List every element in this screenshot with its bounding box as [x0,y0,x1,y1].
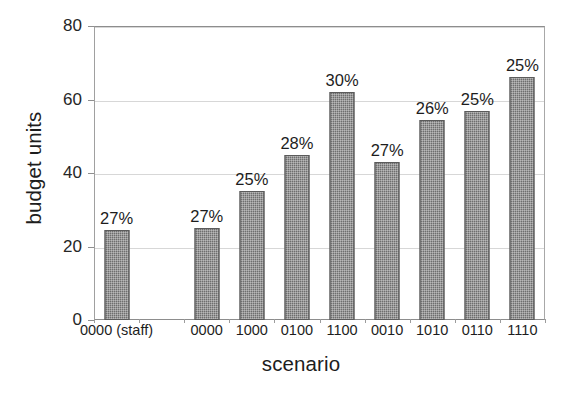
x-tick-mark [455,319,456,323]
x-tick-label: 0000 [191,322,223,338]
bar-slot: 25% [229,26,274,320]
bar-value-label: 27% [100,209,133,228]
x-tick-mark [545,319,546,323]
bar-slot: 25% [455,26,500,320]
bar-value-label: 27% [190,207,223,226]
bar[interactable] [330,92,355,320]
bar-value-label: 25% [235,170,268,189]
bar-chart: budget units 80 60 40 20 0 27% 27% 25% [0,0,577,395]
x-tick-mark [274,319,275,323]
y-tick-label: 20 [42,237,82,257]
x-tick-label: 1110 [507,322,537,338]
bar-slot: 27% [94,26,139,320]
bar-value-label: 26% [416,99,449,118]
x-tick-label: 0110 [462,322,493,338]
bar-slot: 28% [274,26,319,320]
x-tick-label: 0100 [281,322,313,338]
bar[interactable] [194,228,219,320]
bar[interactable] [510,77,535,320]
x-tick-label-staff: 0000 (staff) [80,322,153,338]
bar-value-label: 30% [326,71,359,90]
bar-slot-empty [139,26,184,320]
x-tick-mark [365,319,366,323]
bar[interactable] [375,162,400,320]
x-axis: 0000 (staff) 0000 1000 0100 1100 0010 10… [94,322,545,348]
y-tick-label: 80 [42,16,82,36]
bar-value-label: 25% [461,90,494,109]
bar[interactable] [420,120,445,320]
bar-slot: 25% [500,26,545,320]
x-tick-label: 0010 [371,322,403,338]
x-tick-label: 1000 [236,322,268,338]
x-tick-mark [500,319,501,323]
bar[interactable] [239,191,264,320]
x-tick-mark [320,319,321,323]
bar[interactable] [465,111,490,321]
bar[interactable] [104,230,129,320]
bar-slot: 30% [320,26,365,320]
bar-value-label: 27% [371,141,404,160]
x-tick-label: 1010 [416,322,448,338]
y-tick-label: 60 [42,90,82,110]
x-tick-mark [184,319,185,323]
x-axis-title: scenario [236,352,366,376]
bar-slot: 27% [365,26,410,320]
x-tick-mark [410,319,411,323]
bar-value-label: 25% [506,56,539,75]
bar[interactable] [284,155,309,320]
bars-layer: 27% 27% 25% 28% 30% 27% 26% 25% [94,26,545,320]
x-tick-mark [229,319,230,323]
bar-slot: 27% [184,26,229,320]
bar-slot: 26% [410,26,455,320]
y-tick-label: 0 [42,310,82,330]
x-tick-label: 1100 [326,322,357,338]
y-tick-label: 40 [42,163,82,183]
bar-value-label: 28% [280,134,313,153]
